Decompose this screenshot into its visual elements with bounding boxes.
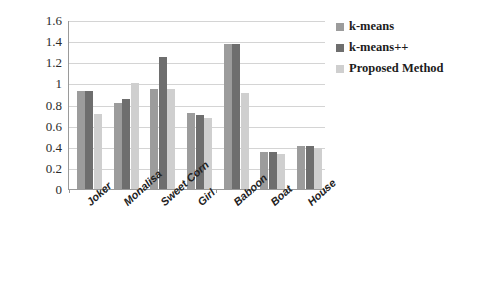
y-axis-tick-label: 1.6 bbox=[16, 14, 62, 27]
bar bbox=[122, 99, 130, 189]
bar-chart: 00.20.40.60.811.21.41.6 k-meansk-means++… bbox=[0, 0, 480, 282]
bar bbox=[297, 146, 305, 189]
legend-swatch-icon bbox=[336, 44, 344, 52]
legend-item[interactable]: k-means bbox=[336, 16, 476, 37]
bar bbox=[269, 152, 277, 189]
bar bbox=[85, 91, 93, 189]
legend-item[interactable]: Proposed Method bbox=[336, 58, 476, 79]
bar-group bbox=[297, 21, 322, 189]
bar-group bbox=[77, 21, 102, 189]
legend-label: k-means bbox=[349, 19, 394, 34]
y-axis-tick-label: 0.6 bbox=[16, 120, 62, 133]
bar-group bbox=[150, 21, 175, 189]
bar bbox=[306, 146, 314, 189]
y-axis-tick-label: 0.2 bbox=[16, 162, 62, 175]
legend-label: Proposed Method bbox=[349, 61, 444, 76]
bar bbox=[94, 114, 102, 189]
bar bbox=[232, 44, 240, 189]
x-axis-tick bbox=[216, 189, 217, 193]
y-axis: 00.20.40.60.811.21.41.6 bbox=[0, 21, 62, 190]
bar-group bbox=[114, 21, 139, 189]
bar bbox=[77, 91, 85, 189]
y-axis-tick-label: 0.8 bbox=[16, 99, 62, 112]
legend-swatch-icon bbox=[336, 65, 344, 73]
y-axis-tick-label: 0.4 bbox=[16, 141, 62, 154]
legend-swatch-icon bbox=[336, 23, 344, 31]
bar bbox=[167, 89, 175, 189]
bar bbox=[204, 118, 212, 189]
y-axis-tick-label: 1.4 bbox=[16, 35, 62, 48]
bar bbox=[241, 93, 249, 189]
chart-legend: k-meansk-means++Proposed Method bbox=[336, 16, 476, 79]
bar-group bbox=[260, 21, 285, 189]
y-axis-tick-label: 0 bbox=[16, 183, 62, 196]
bar-group bbox=[224, 21, 249, 189]
bar bbox=[114, 103, 122, 189]
y-axis-tick-label: 1.2 bbox=[16, 56, 62, 69]
legend-item[interactable]: k-means++ bbox=[336, 37, 476, 58]
bar bbox=[159, 57, 167, 189]
legend-label: k-means++ bbox=[349, 40, 408, 55]
bar bbox=[224, 44, 232, 189]
x-axis-tick bbox=[69, 189, 70, 193]
bar bbox=[131, 83, 139, 189]
y-axis-tick-label: 1 bbox=[16, 77, 62, 90]
